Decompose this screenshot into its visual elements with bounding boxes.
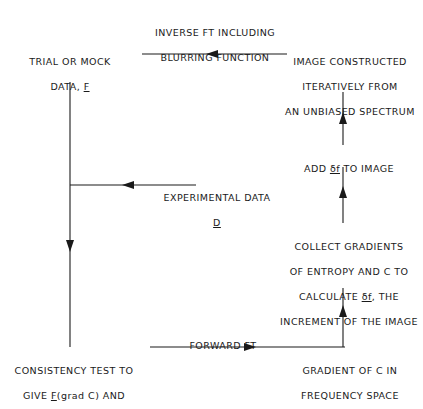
node-collect-gradients-symbol-delta-f: δf — [362, 291, 372, 302]
node-trial-data-line2-prefix: DATA, — [50, 81, 83, 92]
node-gradient-of-c-line2: FREQUENCY SPACE — [277, 390, 423, 403]
node-consistency-test-line2-prefix: GIVE — [23, 390, 51, 401]
arrow-right-middle-head — [339, 186, 347, 198]
node-collect-gradients: COLLECT GRADIENTS OF ENTROPY AND C TO CA… — [275, 228, 423, 341]
node-collect-gradients-line3: CALCULATE δf, THE — [275, 291, 423, 304]
node-trial-data-line1: TRIAL OR MOCK — [8, 56, 132, 69]
flowchart-canvas: TRIAL OR MOCK DATA, F IMAGE CONSTRUCTED … — [0, 0, 423, 409]
edge-label-experimental-data: EXPERIMENTAL DATA D — [152, 179, 282, 242]
node-gradient-of-c: GRADIENT OF C IN FREQUENCY SPACE f(grad … — [277, 352, 423, 409]
node-image-constructed: IMAGE CONSTRUCTED ITERATIVELY FROM AN UN… — [277, 43, 423, 131]
edge-label-inverse-ft-line1: INVERSE FT INCLUDING — [141, 27, 289, 40]
edge-label-forward-ft: FORWARD FT — [148, 327, 298, 365]
arrow-left-column-head — [66, 240, 74, 252]
node-consistency-test-line2-suffix: (grad C) AND — [57, 390, 125, 401]
node-consistency-test-line2: GIVE F(grad C) AND — [0, 390, 148, 403]
node-image-constructed-line3: AN UNBIASED SPECTRUM — [277, 106, 423, 119]
edge-label-experimental-data-symbol-d: D — [152, 217, 282, 230]
node-consistency-test-line1: CONSISTENCY TEST TO — [0, 365, 148, 378]
node-image-constructed-line1: IMAGE CONSTRUCTED — [277, 56, 423, 69]
node-collect-gradients-line1: COLLECT GRADIENTS — [275, 241, 423, 254]
edge-label-experimental-data-line1: EXPERIMENTAL DATA — [152, 192, 282, 205]
node-consistency-test: CONSISTENCY TEST TO GIVE F(grad C) AND C… — [0, 352, 148, 409]
node-trial-data-symbol-f: F — [84, 81, 90, 92]
edge-label-add-delta-f-suffix: TO IMAGE — [340, 163, 394, 174]
edge-label-symbol-delta-f: δf — [330, 163, 340, 174]
edge-label-add-delta-f-text: ADD δf TO IMAGE — [275, 163, 423, 176]
node-trial-data-line2: DATA, F — [8, 81, 132, 94]
node-collect-gradients-line3-prefix: CALCULATE — [299, 291, 362, 302]
edge-label-inverse-ft-line2: BLURRING FUNCTION — [141, 52, 289, 65]
node-collect-gradients-line2: OF ENTROPY AND C TO — [275, 266, 423, 279]
edge-label-forward-ft-text: FORWARD FT — [148, 340, 298, 353]
node-trial-or-mock-data: TRIAL OR MOCK DATA, F — [8, 43, 132, 106]
node-collect-gradients-line3-suffix: , THE — [372, 291, 399, 302]
node-gradient-of-c-line1: GRADIENT OF C IN — [277, 365, 423, 378]
edge-label-inverse-ft: INVERSE FT INCLUDING BLURRING FUNCTION — [141, 14, 289, 77]
edge-label-add-delta-f: ADD δf TO IMAGE — [275, 150, 423, 188]
arrow-experimental-data-head — [122, 181, 134, 189]
edge-label-add-delta-f-prefix: ADD — [304, 163, 330, 174]
node-image-constructed-line2: ITERATIVELY FROM — [277, 81, 423, 94]
